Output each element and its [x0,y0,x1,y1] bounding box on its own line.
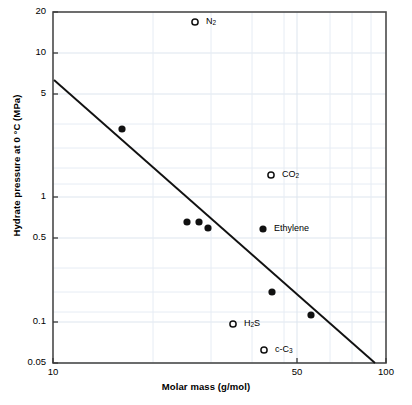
chart-canvas [0,0,412,405]
x-tick-50: 50 [277,366,317,377]
data-points-open [192,19,274,353]
trend-line [54,80,375,363]
point-label-c-c3: c-C3 [275,344,293,354]
y-tick-20: 20 [12,5,46,16]
point-label-co2: CO2 [282,169,299,179]
point-label-n2: N2 [206,16,216,26]
gridlines [53,12,386,363]
x-tick-100: 100 [366,366,406,377]
x-tick-10: 10 [33,366,73,377]
figure-caption [0,397,412,405]
x-axis-label: Molar mass (g/mol) [0,381,412,392]
figure: 20 10 5 1 0.5 0.1 0.05 10 50 100 Hydrate… [0,0,412,405]
axis-ticks [53,12,386,363]
y-axis-label: Hydrate pressure at 0 °C (MPa) [11,46,22,286]
plot-frame [53,12,386,363]
point-label-h2s: H2S [244,318,260,328]
point-label-ethylene: Ethylene [274,223,309,233]
y-tick-0.1: 0.1 [12,315,46,326]
